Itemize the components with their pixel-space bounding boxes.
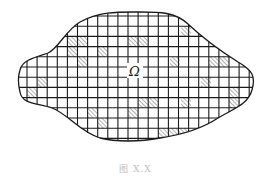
- hatched-cell: [87, 108, 97, 118]
- domain-grid-diagram: Ω: [0, 0, 271, 176]
- hatched-cell: [209, 57, 219, 67]
- hatched-cell: [77, 57, 87, 67]
- hatched-cell: [229, 88, 239, 98]
- hatched-cell: [181, 26, 191, 36]
- hatched-cell: [148, 98, 158, 108]
- hatched-cell: [97, 118, 107, 128]
- figure-caption: 图 X.X: [0, 162, 271, 175]
- hatched-cell: [27, 88, 37, 98]
- hatched-cell: [67, 47, 77, 57]
- hatched-cell: [77, 37, 87, 47]
- hatched-cell: [67, 37, 77, 47]
- hatched-cell: [38, 77, 48, 87]
- hatched-cell: [138, 98, 148, 108]
- hatched-cell: [128, 108, 138, 118]
- region-label-omega: Ω: [128, 64, 140, 79]
- hatched-cell: [97, 47, 107, 57]
- grid-region: [0, 0, 271, 176]
- hatched-cell: [181, 98, 191, 108]
- hatched-cell: [138, 37, 148, 47]
- hatched-cell: [128, 37, 138, 47]
- hatched-cell: [219, 57, 229, 67]
- hatched-cell: [201, 77, 211, 87]
